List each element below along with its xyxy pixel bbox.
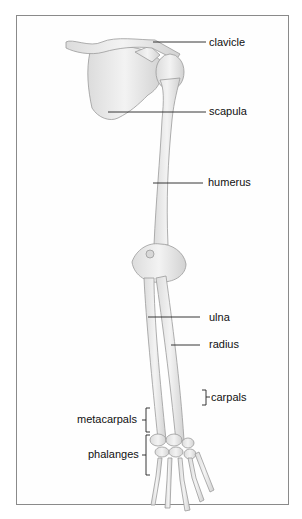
hand-bones bbox=[151, 452, 214, 511]
elbow-joint bbox=[132, 244, 186, 283]
label-ulna: ulna bbox=[209, 311, 230, 323]
label-humerus: humerus bbox=[208, 176, 251, 188]
arm-skeleton-illustration bbox=[0, 0, 302, 519]
label-phalanges: phalanges bbox=[88, 448, 139, 460]
label-metacarpals: metacarpals bbox=[77, 413, 137, 425]
label-radius: radius bbox=[209, 338, 239, 350]
label-clavicle: clavicle bbox=[209, 36, 245, 48]
carpal-bones bbox=[150, 434, 196, 459]
label-scapula: scapula bbox=[209, 105, 247, 117]
humerus-bone bbox=[154, 78, 180, 245]
label-carpals: carpals bbox=[211, 391, 246, 403]
